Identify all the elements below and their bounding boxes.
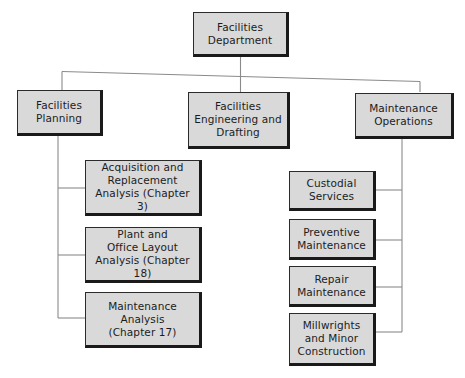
org-chart: Facilities Department Facilities Plannin…: [0, 0, 465, 378]
box-plant-and-office-layout-analysis-label: Plant and Office Layout Analysis (Chapte…: [89, 228, 196, 280]
box-facilities-planning[interactable]: Facilities Planning: [17, 90, 103, 136]
box-acquisition-and-replacement-analysis[interactable]: Acquisition and Replacement Analysis (Ch…: [85, 160, 202, 216]
box-custodial-services[interactable]: Custodial Services: [289, 171, 376, 211]
box-custodial-services-label: Custodial Services: [307, 177, 357, 203]
box-maintenance-analysis-label: Maintenance Analysis (Chapter 17): [108, 300, 177, 339]
box-facilities-department[interactable]: Facilities Department: [193, 12, 289, 57]
box-facilities-engineering-and-drafting[interactable]: Facilities Engineering and Drafting: [188, 92, 290, 149]
connector-root-bus: [62, 72, 420, 82]
box-preventive-maintenance-label: Preventive Maintenance: [297, 226, 366, 252]
box-plant-and-office-layout-analysis[interactable]: Plant and Office Layout Analysis (Chapte…: [85, 227, 202, 283]
box-repair-maintenance[interactable]: Repair Maintenance: [289, 266, 376, 307]
box-preventive-maintenance[interactable]: Preventive Maintenance: [289, 219, 376, 260]
box-millwrights-and-minor-construction-label: Millwrights and Minor Construction: [297, 319, 365, 358]
box-facilities-engineering-and-drafting-label: Facilities Engineering and Drafting: [194, 100, 282, 139]
box-repair-maintenance-label: Repair Maintenance: [297, 273, 366, 299]
box-millwrights-and-minor-construction[interactable]: Millwrights and Minor Construction: [289, 313, 376, 366]
box-maintenance-analysis[interactable]: Maintenance Analysis (Chapter 17): [85, 292, 202, 348]
box-acquisition-and-replacement-analysis-label: Acquisition and Replacement Analysis (Ch…: [89, 161, 196, 213]
box-maintenance-operations[interactable]: Maintenance Operations: [355, 93, 454, 139]
box-facilities-department-label: Facilities Department: [208, 21, 273, 47]
box-facilities-planning-label: Facilities Planning: [36, 99, 82, 125]
box-maintenance-operations-label: Maintenance Operations: [369, 102, 438, 128]
